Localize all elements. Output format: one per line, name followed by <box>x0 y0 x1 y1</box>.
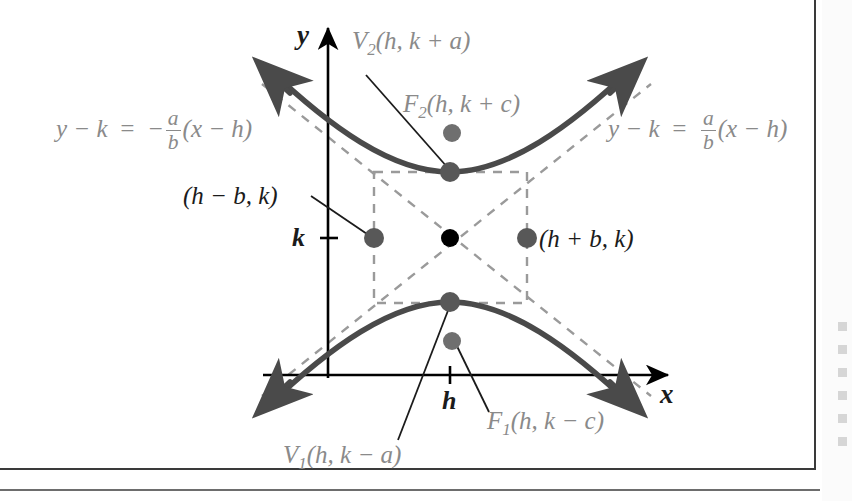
label-upper-focus-coords: (h, k + c) <box>427 90 520 117</box>
y-tick-label-k: k <box>292 225 305 251</box>
label-lower-vertex-subscript: 1 <box>298 454 307 473</box>
label-lower-focus-coords: (h, k − c) <box>511 407 604 434</box>
x-axis-label: x <box>660 381 674 408</box>
asymptote-left-fraction: ab <box>166 107 181 153</box>
asymptote-right-numerator: a <box>701 107 716 130</box>
label-upper-focus-symbol: F <box>403 90 418 117</box>
asymptote-right-equals: = <box>671 115 688 142</box>
asymptote-left-sign: − <box>147 115 164 142</box>
hyperbola-diagram <box>0 0 852 501</box>
leader-line-left-box-point <box>311 196 370 236</box>
point-lower-vertex <box>440 292 460 312</box>
label-upper-focus-subscript: 2 <box>418 103 427 122</box>
label-upper-vertex: V2(h, k + a) <box>352 28 470 58</box>
asymptote-left-equals: = <box>119 115 136 142</box>
label-lower-focus-symbol: F <box>487 407 502 434</box>
hyperbola-lower-right-arrow <box>610 382 634 405</box>
label-right-box-point: (h + b, k) <box>539 226 634 251</box>
label-lower-focus-subscript: 1 <box>502 420 511 439</box>
point-lower-focus <box>443 332 461 350</box>
point-upper-focus <box>443 124 461 142</box>
asymptote-left-lhs: y − k <box>56 115 108 142</box>
asymptote-right-lhs: y − k <box>608 115 660 142</box>
asymptote-right-denominator: b <box>701 130 716 154</box>
x-tick-label-h: h <box>442 388 456 414</box>
label-lower-vertex-coords: (h, k − a) <box>307 441 402 468</box>
label-upper-vertex-coords: (h, k + a) <box>376 27 471 54</box>
asymptote-left-rhs: (x − h) <box>183 115 253 142</box>
point-left-box <box>364 228 384 248</box>
asymptote-equation-left: y − k = −ab(x − h) <box>56 108 252 154</box>
point-upper-vertex <box>440 162 460 182</box>
asymptote-equation-right: y − k = ab(x − h) <box>608 108 787 154</box>
point-right-box <box>517 228 537 248</box>
asymptote-left-denominator: b <box>166 130 181 154</box>
label-upper-vertex-subscript: 2 <box>367 40 376 59</box>
figure-page: y x k h y − k = −ab(x − h) y − k = ab(x … <box>0 0 852 501</box>
label-upper-vertex-symbol: V <box>352 27 367 54</box>
label-left-box-point: (h − b, k) <box>183 183 278 208</box>
label-lower-vertex-symbol: V <box>283 441 298 468</box>
label-lower-vertex: V1(h, k − a) <box>283 442 401 472</box>
point-center <box>441 229 459 247</box>
label-upper-focus: F2(h, k + c) <box>403 91 520 121</box>
asymptote-right-rhs: (x − h) <box>718 115 788 142</box>
asymptote-left-numerator: a <box>166 107 181 130</box>
hyperbola-lower-left-arrow <box>266 382 290 405</box>
y-axis-label: y <box>297 22 309 49</box>
label-lower-focus: F1(h, k − c) <box>487 408 604 438</box>
asymptote-right-fraction: ab <box>701 107 716 153</box>
